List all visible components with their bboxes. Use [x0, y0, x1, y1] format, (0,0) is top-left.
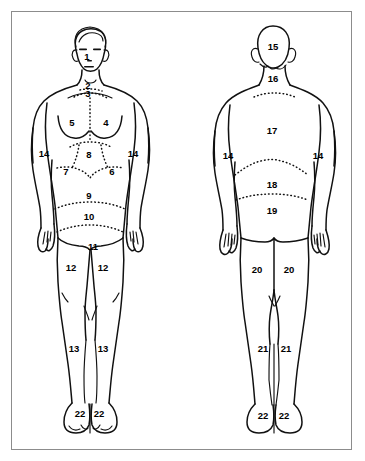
back-region-label-right-calf: 21 [258, 343, 269, 354]
front-region-label-right-arm: 14 [39, 148, 50, 159]
front-region-label-right-lower-leg: 13 [69, 343, 80, 354]
back-region-label-right-foot: 22 [258, 410, 269, 421]
front-right-calf-inner [84, 340, 86, 403]
front-right-fingers [43, 231, 51, 244]
front-region-label-right-foot: 22 [75, 408, 86, 419]
front-left-eye [93, 49, 101, 51]
divider-umbilical-lower [55, 202, 125, 209]
divider-epigastric-top [70, 142, 111, 147]
front-region-label-left-thigh: 12 [98, 262, 109, 273]
divider-epigastric-right [72, 145, 79, 168]
body-region-diagram: 12354141487691011121213132222 1516171414… [0, 0, 365, 461]
front-right-leg-inner [85, 250, 90, 340]
divider-epigastric-left [101, 145, 108, 168]
front-region-label-suprasternal-notch: 3 [85, 88, 90, 99]
divider-back-neck-shoulder [254, 93, 295, 97]
front-region-label-groin: 11 [88, 241, 99, 252]
front-region-label-right-chest: 5 [69, 117, 75, 128]
front-left-hand [133, 228, 143, 252]
back-region-label-left-arm: 14 [313, 150, 324, 161]
front-left-calf-inner [95, 340, 97, 403]
front-hairline [75, 27, 106, 47]
front-left-leg-outer [109, 238, 124, 403]
front-region-label-left-foot: 22 [94, 408, 105, 419]
front-region-label-left-hypochondrium: 6 [109, 166, 114, 177]
back-region-label-right-buttock-thigh: 20 [252, 264, 263, 275]
front-right-hand [38, 228, 48, 252]
posterior-figure [214, 26, 336, 433]
back-region-label-left-foot: 22 [279, 410, 290, 421]
front-mouth [84, 66, 94, 68]
divider-neck-upper [80, 89, 102, 91]
back-right-calf-inner [269, 344, 272, 405]
back-region-label-upper-back: 17 [267, 125, 278, 136]
front-region-label-right-thigh: 12 [66, 262, 77, 273]
front-knee-outer-crease [62, 293, 119, 302]
figures-canvas: 12354141487691011121213132222 1516171414… [0, 0, 365, 461]
front-right-toes [69, 425, 88, 430]
back-region-label-lower-back: 19 [267, 205, 278, 216]
back-region-label-left-calf: 21 [281, 343, 292, 354]
front-region-label-right-hypochondrium: 7 [63, 166, 68, 177]
front-region-label-umbilical: 9 [86, 190, 91, 201]
divider-hypogastric-lower [57, 225, 123, 232]
back-region-label-mid-back: 18 [267, 179, 278, 190]
front-left-leg-inner [91, 250, 96, 340]
back-left-leg-outer [294, 238, 309, 404]
back-right-fingers [224, 233, 235, 247]
front-region-label-hypogastrium: 10 [84, 211, 95, 222]
front-region-label-left-lower-leg: 13 [98, 343, 109, 354]
back-left-calf-inner [276, 344, 279, 405]
front-region-label-face: 1 [84, 51, 90, 62]
back-region-label-right-arm: 14 [223, 150, 234, 161]
divider-back-mid-lower [236, 194, 308, 200]
back-left-leg-inner [274, 290, 279, 344]
front-left-toes [93, 425, 112, 430]
divider-back-upper-mid [235, 160, 308, 176]
front-hair-strand [79, 33, 103, 42]
front-knee-crease [84, 306, 97, 320]
back-left-fingers [314, 233, 325, 247]
front-region-label-left-arm: 14 [128, 148, 139, 159]
back-region-label-back-of-head: 15 [268, 41, 279, 52]
front-region-label-left-chest: 4 [103, 117, 109, 128]
back-region-label-left-buttock-thigh: 20 [284, 264, 295, 275]
front-region-label-epigastrium: 8 [86, 149, 91, 160]
front-left-fingers [130, 231, 138, 244]
back-region-label-posterior-neck: 16 [268, 73, 279, 84]
